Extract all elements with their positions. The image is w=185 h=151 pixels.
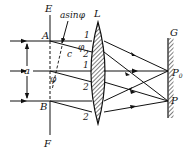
label-p0: P0: [171, 67, 183, 79]
label-a-point: A: [41, 30, 49, 41]
label-ray-2-mid: 2: [82, 82, 89, 92]
diffraction-diagram: E F A B a asinφ c φ φ 1 2 1 2 2 L: [0, 0, 185, 151]
screen: [168, 38, 174, 118]
label-ray-2-top: 2: [82, 49, 89, 59]
focused-rays: [104, 41, 168, 112]
label-slit-width: a: [24, 65, 30, 76]
label-f: F: [43, 138, 52, 149]
label-path-difference: asinφ: [60, 10, 86, 20]
label-ray-1-top: 1: [84, 30, 90, 40]
label-lens: L: [93, 8, 101, 19]
label-screen: G: [170, 27, 178, 38]
label-p: P: [170, 95, 178, 106]
label-ray-2-bot: 2: [82, 112, 89, 122]
label-ray-1-mid: 1: [83, 60, 89, 70]
path-diff-pointer: [62, 21, 68, 43]
label-phi-bottom: φ: [50, 74, 57, 84]
label-e: E: [44, 3, 53, 14]
label-b-point: B: [39, 101, 47, 112]
label-c: c: [67, 49, 72, 59]
ray-direction-arrows: [125, 52, 138, 109]
